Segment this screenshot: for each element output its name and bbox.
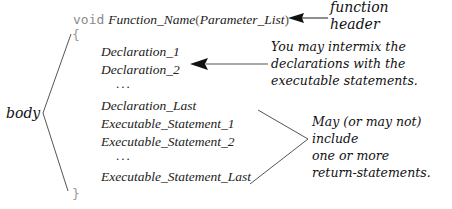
function-header-label-line-2: header [330, 16, 389, 33]
body-bracket-line [43, 34, 71, 191]
declarations-note-line-3: executable statements. [271, 72, 418, 89]
open-brace: { [72, 27, 80, 42]
executable-statement-1: Executable_Statement_1 [101, 116, 234, 132]
statements-ellipsis: ... [116, 148, 132, 164]
function-header-label-line-1: function [330, 0, 389, 16]
close-brace: } [72, 186, 80, 201]
declarations-note-line-1: You may intermix the [271, 38, 418, 55]
declaration-last: Declaration_Last [101, 98, 196, 114]
return-note-line-1: May (or may not) [312, 113, 431, 130]
return-type-keyword: void [73, 12, 104, 27]
declaration-1: Declaration_1 [101, 44, 180, 60]
function-header-label: function header [330, 0, 389, 33]
executable-statement-last: Executable_Statement_Last [101, 169, 251, 185]
header-arrow-icon [288, 13, 328, 23]
declarations-arrow-icon [190, 58, 268, 70]
function-anatomy-diagram: void Function_Name(Parameter_List) funct… [0, 0, 452, 209]
return-note: May (or may not) include one or more ret… [312, 113, 431, 181]
declarations-ellipsis: ... [116, 76, 132, 92]
return-note-line-3: one or more [312, 147, 431, 164]
body-label: body [6, 105, 40, 122]
declarations-note-line-2: declarations with the [271, 55, 418, 72]
function-name: Function_Name [108, 12, 195, 27]
close-paren: ) [285, 12, 290, 27]
function-header: void Function_Name(Parameter_List) [73, 10, 289, 28]
return-note-line-2: include [312, 130, 431, 147]
parameter-list: Parameter_List [200, 12, 285, 27]
return-note-line-4: return-statements. [312, 164, 431, 181]
declaration-2: Declaration_2 [101, 62, 180, 78]
declarations-note: You may intermix the declarations with t… [271, 38, 418, 89]
return-bracket-line [250, 110, 308, 184]
